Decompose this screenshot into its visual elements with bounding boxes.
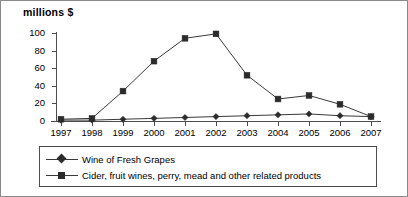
- x-tick-mark: [185, 122, 186, 126]
- plot-area: [57, 33, 375, 121]
- data-point-1-10: [368, 114, 374, 120]
- y-tick-label: 20: [34, 98, 45, 107]
- series-canvas: [57, 33, 375, 121]
- data-point-1-5: [213, 31, 219, 37]
- x-tick-mark: [123, 122, 124, 126]
- data-point-0-6: [244, 113, 250, 119]
- y-tick-label: 40: [34, 81, 45, 90]
- x-tick-label: 2007: [354, 128, 388, 138]
- legend-label-1: Cider, fruit wines, perry, mead and othe…: [82, 170, 321, 181]
- x-tick-label: 1997: [44, 128, 78, 138]
- x-tick-label: 2002: [199, 128, 233, 138]
- y-tick-mark: [52, 121, 57, 122]
- x-tick-label: 1999: [106, 128, 140, 138]
- data-point-0-8: [306, 111, 312, 117]
- x-tick-label: 2005: [292, 128, 326, 138]
- x-tick-mark: [154, 122, 155, 126]
- data-point-1-2: [120, 88, 126, 94]
- x-tick-mark: [216, 122, 217, 126]
- x-tick-mark: [278, 122, 279, 126]
- x-tick-label: 2006: [323, 128, 357, 138]
- y-tick-label: 80: [34, 46, 45, 55]
- data-point-0-9: [337, 113, 343, 119]
- data-point-0-4: [182, 114, 188, 120]
- x-tick-label: 2001: [168, 128, 202, 138]
- diamond-marker-icon: [46, 153, 78, 165]
- x-tick-mark: [309, 122, 310, 126]
- data-point-0-7: [275, 112, 281, 118]
- data-point-0-3: [151, 115, 157, 121]
- x-tick-label: 2003: [230, 128, 264, 138]
- y-tick-label: 100: [29, 28, 45, 37]
- data-point-1-4: [182, 35, 188, 41]
- x-tick-mark: [340, 122, 341, 126]
- x-tick-label: 1998: [75, 128, 109, 138]
- chart-legend: Wine of Fresh Grapes Cider, fruit wines,…: [39, 146, 377, 187]
- x-tick-label: 2000: [137, 128, 171, 138]
- square-marker-icon: [46, 169, 78, 181]
- legend-item-cider-fruit-wines: Cider, fruit wines, perry, mead and othe…: [46, 167, 370, 183]
- data-point-1-9: [337, 101, 343, 107]
- x-tick-mark: [247, 122, 248, 126]
- line-chart-figure: millions $ 020406080100 1997199819992000…: [0, 0, 408, 197]
- legend-label-0: Wine of Fresh Grapes: [82, 154, 175, 165]
- legend-item-wine-of-fresh-grapes: Wine of Fresh Grapes: [46, 151, 370, 167]
- data-point-0-5: [213, 114, 219, 120]
- y-tick-label: 0: [40, 116, 45, 125]
- series-line-1: [61, 34, 371, 119]
- data-point-1-6: [244, 72, 250, 78]
- y-tick-label: 60: [34, 63, 45, 72]
- data-point-1-3: [151, 58, 157, 64]
- x-tick-label: 2004: [261, 128, 295, 138]
- x-tick-mark: [371, 122, 372, 126]
- data-point-1-1: [89, 115, 95, 121]
- data-point-1-7: [275, 96, 281, 102]
- data-point-1-0: [58, 116, 64, 122]
- data-point-1-8: [306, 93, 312, 99]
- chart-title: millions $: [23, 6, 73, 18]
